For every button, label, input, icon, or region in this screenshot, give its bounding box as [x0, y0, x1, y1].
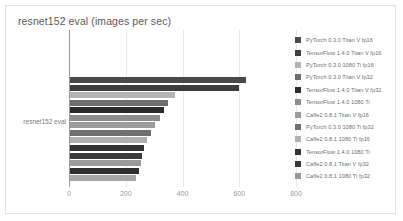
legend-item[interactable]: TensorFlow 1.4.0 1080 Ti: [295, 96, 400, 108]
x-tick-label: 600: [233, 190, 245, 197]
legend-item[interactable]: Caffe2 0.8.1 1080 Ti fp32: [295, 170, 400, 182]
bar: [70, 122, 155, 128]
legend-item[interactable]: Caffe2 0.8.1 Titan V fp32: [295, 158, 400, 170]
legend-label: Caffe2 0.8.1 Titan V fp32: [306, 161, 369, 167]
x-tick-label: 200: [120, 190, 132, 197]
legend-label: Caffe2 0.8.1 1080 Ti fp32: [306, 173, 370, 179]
x-tick-label: 0: [67, 190, 71, 197]
legend-swatch-icon: [295, 136, 301, 142]
bar: [70, 92, 175, 98]
bar: [70, 100, 168, 106]
category-label: resnet152 eval: [14, 118, 66, 125]
legend-label: PyTorch 0.3.0 Titan V fp32: [306, 74, 373, 80]
bar: [70, 137, 147, 143]
legend-label: Caffe2 0.8.1 1080 Ti fp16: [306, 136, 370, 142]
bar: [70, 145, 144, 151]
legend-swatch-icon: [295, 62, 301, 68]
bar: [70, 130, 151, 136]
legend-label: PyTorch 0.3.0 1080 Ti fp16: [306, 62, 374, 68]
gridline-600: [239, 30, 240, 187]
chart-title: resnet152 eval (images per sec): [18, 15, 171, 27]
legend-label: Caffe2 0.8.1 Titan V fp16: [306, 112, 369, 118]
legend-item[interactable]: PyTorch 0.3.0 1080 Ti fp32: [295, 121, 400, 133]
x-tick-label: 800: [290, 190, 302, 197]
legend-swatch-icon: [295, 74, 301, 80]
bar: [70, 115, 160, 121]
legend-item[interactable]: PyTorch 0.3.0 Titan V fp16: [295, 34, 400, 46]
legend-swatch-icon: [295, 124, 301, 130]
legend-swatch-icon: [295, 173, 301, 179]
legend-swatch-icon: [295, 37, 301, 43]
legend-label: PyTorch 0.3.0 1080 Ti fp32: [306, 124, 374, 130]
legend-label: TensorFlow 1.4.0 1080 Ti: [306, 149, 370, 155]
legend-label: PyTorch 0.3.0 Titan V fp16: [306, 37, 373, 43]
legend-item[interactable]: Caffe2 0.8.1 Titan V fp16: [295, 108, 400, 120]
legend-label: TensorFlow 1.4.0 Titan V fp16: [306, 50, 381, 56]
legend-label: TensorFlow 1.4.0 Titan V fp32: [306, 87, 381, 93]
gridline-400: [183, 30, 184, 187]
x-tick-label: 400: [177, 190, 189, 197]
legend-item[interactable]: TensorFlow 1.4.0 1080 Ti: [295, 146, 400, 158]
legend-item[interactable]: Caffe2 0.8.1 1080 Ti fp16: [295, 133, 400, 145]
bar: [70, 77, 246, 83]
legend-swatch-icon: [295, 99, 301, 105]
bar: [70, 160, 141, 166]
chart-legend: PyTorch 0.3.0 Titan V fp16TensorFlow 1.4…: [295, 34, 400, 183]
bar: [70, 153, 142, 159]
legend-swatch-icon: [295, 149, 301, 155]
legend-swatch-icon: [295, 112, 301, 118]
legend-swatch-icon: [295, 161, 301, 167]
legend-item[interactable]: PyTorch 0.3.0 1080 Ti fp16: [295, 59, 400, 71]
legend-item[interactable]: PyTorch 0.3.0 Titan V fp32: [295, 71, 400, 83]
legend-label: TensorFlow 1.4.0 1080 Ti: [306, 99, 370, 105]
legend-swatch-icon: [295, 87, 301, 93]
bar: [70, 168, 139, 174]
chart-card: resnet152 eval (images per sec) resnet15…: [5, 5, 396, 214]
bar: [70, 175, 136, 181]
legend-item[interactable]: TensorFlow 1.4.0 Titan V fp32: [295, 84, 400, 96]
legend-swatch-icon: [295, 50, 301, 56]
bar: [70, 107, 164, 113]
legend-item[interactable]: TensorFlow 1.4.0 Titan V fp16: [295, 46, 400, 58]
plot-area: [69, 30, 296, 187]
bar: [70, 85, 239, 91]
